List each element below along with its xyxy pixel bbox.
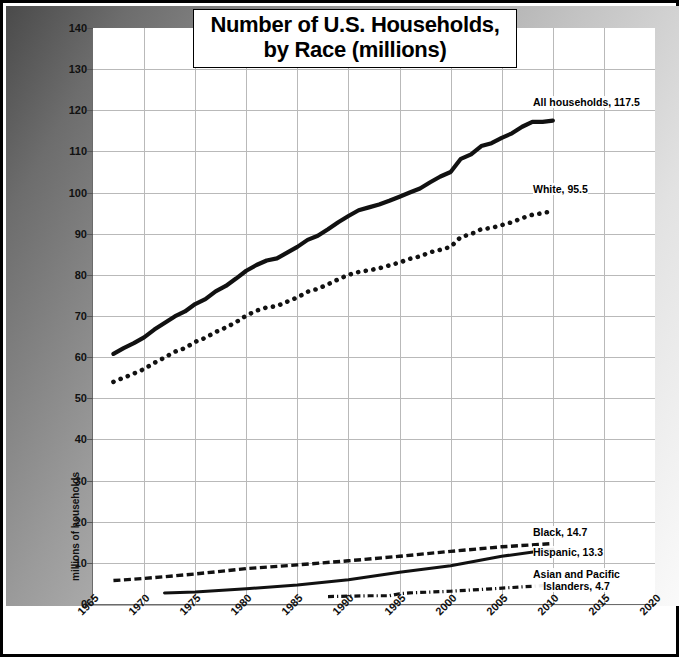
y-axis-tickmark xyxy=(87,316,93,317)
x-axis-line xyxy=(92,604,656,605)
y-axis-tick-100: 100 xyxy=(53,187,87,199)
y-axis-tick-50: 50 xyxy=(53,392,87,404)
y-axis-tick-110: 110 xyxy=(53,145,87,157)
y-axis-tickmark xyxy=(87,151,93,152)
y-axis-tickmark xyxy=(87,110,93,111)
chart-title-line-2: by Race (millions) xyxy=(194,38,516,63)
annotation-black: Black, 14.7 xyxy=(533,526,587,538)
series-line-black xyxy=(113,544,552,581)
y-axis-tickmark xyxy=(87,357,93,358)
y-axis-tickmark xyxy=(87,28,93,29)
y-axis-tickmark xyxy=(87,522,93,523)
annotation-asian-pacific-islanders: Asian and Pacific Islanders, 4.7 xyxy=(533,568,620,592)
annotation-white: White, 95.5 xyxy=(533,183,588,195)
y-axis-tick-40: 40 xyxy=(53,433,87,445)
chart-frame: Number of U.S. Households, by Race (mill… xyxy=(0,0,679,657)
series-line-all-households xyxy=(113,121,552,354)
y-axis-title: millions of households xyxy=(70,462,81,592)
y-axis-tickmark xyxy=(87,439,93,440)
series-line-white xyxy=(113,211,552,382)
plot-area xyxy=(93,28,655,604)
y-axis-tick-140: 140 xyxy=(53,22,87,34)
y-axis-tickmark xyxy=(87,398,93,399)
y-axis-tick-130: 130 xyxy=(53,63,87,75)
y-axis-tickmark xyxy=(87,563,93,564)
y-axis-tick-90: 90 xyxy=(53,228,87,240)
y-axis-tickmark xyxy=(87,275,93,276)
annotation-asian-line-2: Islanders, 4.7 xyxy=(533,580,620,592)
annotation-asian-line-1: Asian and Pacific xyxy=(533,568,620,580)
y-axis-tickmark xyxy=(87,234,93,235)
y-axis-tickmark xyxy=(87,193,93,194)
series-line-asian-and-pacific-islanders xyxy=(328,585,553,597)
annotation-all-households: All households, 117.5 xyxy=(533,96,640,108)
chart-title: Number of U.S. Households, by Race (mill… xyxy=(193,9,517,68)
y-axis-tick-120: 120 xyxy=(53,104,87,116)
annotation-hispanic: Hispanic, 13.3 xyxy=(533,546,603,558)
y-axis-title-wrap: millions of households xyxy=(55,253,75,393)
y-axis-tickmark xyxy=(87,481,93,482)
series-lines xyxy=(93,28,655,604)
y-axis-tickmark xyxy=(87,69,93,70)
chart-title-line-1: Number of U.S. Households, xyxy=(194,13,516,38)
